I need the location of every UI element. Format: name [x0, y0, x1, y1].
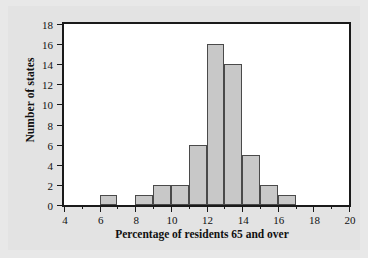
x-axis-tick: 18 — [313, 205, 314, 212]
x-axis-tick: 20 — [349, 205, 350, 212]
y-axis-tick-label: 10 — [42, 99, 53, 111]
y-axis-tick: 18 — [57, 24, 64, 25]
x-axis-minor-tick — [331, 205, 332, 209]
x-axis-tick: 14 — [242, 205, 243, 212]
x-axis-tick: 6 — [100, 205, 101, 212]
x-axis-minor-tick — [260, 205, 261, 209]
y-axis-tick-label: 18 — [42, 19, 53, 31]
histogram-bar — [224, 64, 242, 205]
x-axis-minor-tick — [153, 205, 154, 209]
x-axis-tick-label: 16 — [273, 214, 284, 226]
y-axis-tick-label: 2 — [48, 180, 54, 192]
x-axis-tick: 16 — [278, 205, 279, 212]
x-axis-tick: 12 — [207, 205, 208, 212]
x-axis-minor-tick — [224, 205, 225, 209]
x-axis-title: Percentage of residents 65 and over — [52, 228, 352, 240]
y-axis-tick: 8 — [57, 125, 64, 126]
x-axis-tick-label: 12 — [202, 214, 213, 226]
histogram-bar — [260, 185, 278, 205]
y-axis-tick: 10 — [57, 104, 64, 105]
histogram-bar — [171, 185, 189, 205]
x-axis-minor-tick — [296, 205, 297, 209]
x-axis-tick-label: 18 — [309, 214, 320, 226]
x-axis-tick-label: 20 — [345, 214, 356, 226]
figure-inner-panel: Number of states 02468101214161846810121… — [8, 6, 360, 250]
y-axis-tick: 4 — [57, 165, 64, 166]
x-axis-tick: 8 — [135, 205, 136, 212]
y-axis-tick-label: 0 — [48, 200, 54, 212]
x-axis-tick-label: 6 — [98, 214, 104, 226]
x-axis-tick-label: 14 — [238, 214, 249, 226]
y-axis-tick-label: 16 — [42, 39, 53, 51]
y-axis-tick: 16 — [57, 44, 64, 45]
histogram-bar — [242, 155, 260, 205]
plot-frame: 024681012141618468101214161820 — [62, 22, 351, 207]
y-axis-tick: 0 — [57, 205, 64, 206]
x-axis-minor-tick — [82, 205, 83, 209]
y-axis-tick-label: 6 — [48, 139, 54, 151]
histogram-bar — [153, 185, 171, 205]
plot-area — [64, 24, 349, 205]
x-axis-tick-label: 10 — [166, 214, 177, 226]
x-axis-minor-tick — [189, 205, 190, 209]
y-axis-tick: 14 — [57, 64, 64, 65]
y-axis-tick-label: 4 — [48, 160, 54, 172]
x-axis-tick: 10 — [171, 205, 172, 212]
x-axis-tick: 4 — [64, 205, 65, 212]
y-axis-title: Number of states — [24, 40, 36, 160]
y-axis-tick: 12 — [57, 84, 64, 85]
y-axis-tick-label: 12 — [42, 79, 53, 91]
x-axis-tick-label: 4 — [62, 214, 68, 226]
y-axis-tick-label: 8 — [48, 119, 54, 131]
x-axis-tick-label: 8 — [134, 214, 140, 226]
histogram-bar — [189, 145, 207, 205]
y-axis-tick: 2 — [57, 185, 64, 186]
histogram-figure: Number of states 02468101214161846810121… — [0, 0, 368, 258]
histogram-bar — [278, 195, 296, 205]
x-axis-minor-tick — [117, 205, 118, 209]
histogram-bar — [207, 44, 225, 205]
histogram-bar — [100, 195, 118, 205]
y-axis-tick-label: 14 — [42, 59, 53, 71]
histogram-bar — [135, 195, 153, 205]
y-axis-tick: 6 — [57, 145, 64, 146]
